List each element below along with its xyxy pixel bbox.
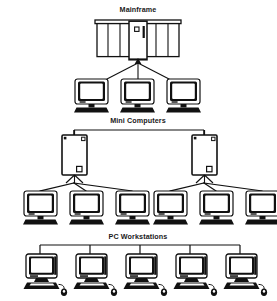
mini-left-links — [40, 183, 132, 191]
pc-workstation-icon[interactable] — [224, 254, 268, 296]
terminal-icon[interactable] — [166, 79, 201, 113]
mini-right-links — [170, 183, 262, 191]
tier-label-mini-computers: Mini Computers — [110, 116, 166, 125]
pc-bus-line — [40, 245, 240, 254]
mainframe-cabinet-icon[interactable] — [95, 20, 181, 60]
tier-mainframe: Mainframe — [74, 5, 201, 113]
network-diagram: Mainframe Mini Computers — [0, 0, 277, 301]
terminal-icon[interactable] — [74, 79, 109, 113]
tier-mini-computers: Mini Computers — [23, 116, 277, 225]
terminal-icon[interactable] — [153, 191, 188, 225]
terminal-icon[interactable] — [245, 191, 277, 225]
mainframe-links — [107, 58, 169, 79]
mini-computer-icon[interactable] — [62, 130, 87, 183]
diagram-canvas: Mainframe Mini Computers — [0, 0, 277, 301]
mini-computer-icon[interactable] — [192, 130, 217, 183]
terminal-icon[interactable] — [69, 191, 104, 225]
tier-label-pc-workstations: PC Workstations — [109, 232, 168, 241]
pc-workstation-icon[interactable] — [124, 254, 168, 296]
pc-workstation-icon[interactable] — [174, 254, 218, 296]
terminal-icon[interactable] — [199, 191, 234, 225]
pc-workstation-icon[interactable] — [74, 254, 118, 296]
terminal-icon[interactable] — [120, 79, 155, 113]
tier-pc-workstations: PC Workstations — [24, 232, 268, 296]
mini-bus-line — [74, 130, 204, 135]
pc-workstation-icon[interactable] — [24, 254, 68, 296]
terminal-icon[interactable] — [23, 191, 58, 225]
tier-label-mainframe: Mainframe — [120, 5, 157, 14]
terminal-icon[interactable] — [115, 191, 150, 225]
